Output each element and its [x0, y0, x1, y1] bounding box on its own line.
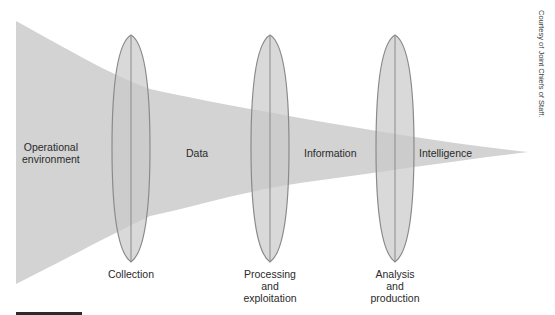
stage-label-analysis-production: Analysis and production [370, 268, 419, 304]
region-label-intelligence: Intelligence [419, 147, 472, 159]
stage-label-collection: Collection [108, 268, 154, 280]
stage-label-processing-exploitation: Processing and exploitation [243, 268, 296, 304]
lens-analysis-production [376, 35, 414, 262]
lens-collection [112, 35, 150, 262]
lens-processing-exploitation [251, 35, 289, 262]
image-credit: Courtesy of Joint Chiefs of Staff. [537, 10, 546, 117]
region-label-information: Information [304, 147, 357, 159]
region-label-operational-environment: Operational environment [22, 141, 80, 165]
region-label-data: Data [186, 147, 208, 159]
